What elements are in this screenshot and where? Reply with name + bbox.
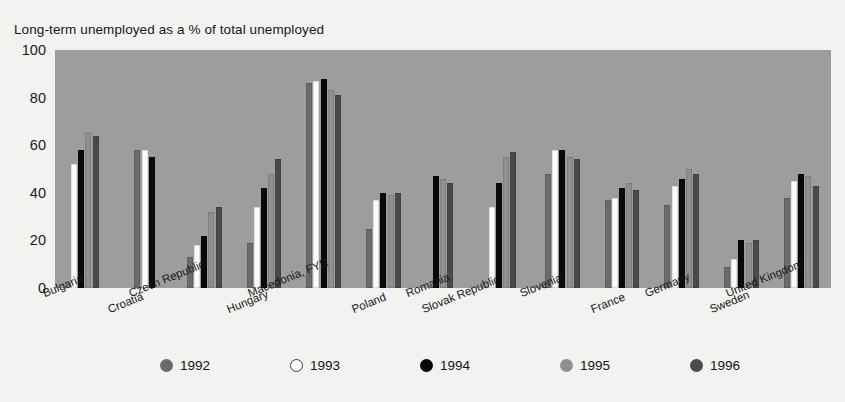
- bar-slovenia-1996: [574, 159, 580, 288]
- bar-group: [433, 50, 453, 288]
- bar-hungary-1994: [261, 188, 267, 288]
- legend-label: 1993: [310, 358, 340, 373]
- bar-hungary-1992: [247, 243, 253, 288]
- legend-item-1996[interactable]: 1996: [690, 358, 740, 373]
- bar-bulgaria-1993: [71, 164, 77, 288]
- bar-poland-1992: [366, 229, 372, 289]
- bar-group: [306, 50, 341, 288]
- bar-romania-1994: [433, 176, 439, 288]
- bar-hungary-1993: [254, 207, 260, 288]
- legend-label: 1995: [580, 358, 610, 373]
- bar-bulgaria-1994: [78, 150, 84, 288]
- legend-label: 1994: [440, 358, 470, 373]
- bar-poland-1995: [388, 195, 394, 288]
- bar-group: [71, 50, 99, 288]
- legend-swatch-icon: [690, 359, 703, 372]
- bar-group: [664, 50, 699, 288]
- bar-germany-1993: [672, 186, 678, 288]
- y-axis-tick: 60: [30, 137, 46, 153]
- x-axis-label-france: France: [589, 291, 627, 316]
- x-axis-label-poland: Poland: [350, 291, 388, 316]
- bar-macedonia-fyr-1993: [313, 81, 319, 288]
- bar-slovenia-1994: [559, 150, 565, 288]
- bar-macedonia-fyr-1992: [306, 83, 312, 288]
- y-axis: 020406080100: [0, 50, 52, 288]
- bar-group: [724, 50, 759, 288]
- y-axis-tick: 40: [30, 185, 46, 201]
- bar-group: [366, 50, 401, 288]
- bar-united-kingdom-1995: [805, 176, 811, 288]
- bar-macedonia-fyr-1996: [335, 95, 341, 288]
- bar-group: [605, 50, 640, 288]
- bar-germany-1992: [664, 205, 670, 288]
- x-axis-category-labels: BulgariaCroatiaCzech RepublicHungaryMace…: [55, 288, 845, 358]
- bar-france-1992: [605, 200, 611, 288]
- bar-france-1995: [626, 183, 632, 288]
- legend-swatch-icon: [420, 359, 433, 372]
- legend-item-1994[interactable]: 1994: [420, 358, 470, 373]
- bar-group: [134, 50, 154, 288]
- bars-layer: [55, 50, 831, 288]
- legend-swatch-icon: [560, 359, 573, 372]
- bar-slovak-republic-1994: [496, 183, 502, 288]
- bar-bulgaria-1995: [85, 133, 91, 288]
- bar-czech-republic-1995: [208, 212, 214, 288]
- legend-label: 1996: [710, 358, 740, 373]
- bar-france-1993: [612, 198, 618, 288]
- bar-croatia-1993: [142, 150, 148, 288]
- bar-germany-1996: [693, 174, 699, 288]
- bar-united-kingdom-1994: [798, 174, 804, 288]
- bar-group: [545, 50, 580, 288]
- bar-bulgaria-1996: [93, 136, 99, 288]
- bar-slovenia-1993: [552, 150, 558, 288]
- bar-slovak-republic-1995: [503, 157, 509, 288]
- chart-container: Long-term unemployed as a % of total une…: [0, 0, 845, 402]
- bar-hungary-1995: [268, 174, 274, 288]
- bar-hungary-1996: [275, 159, 281, 288]
- legend-item-1993[interactable]: 1993: [290, 358, 340, 373]
- legend-item-1995[interactable]: 1995: [560, 358, 610, 373]
- bar-slovenia-1995: [567, 157, 573, 288]
- y-axis-tick: 20: [30, 232, 46, 248]
- bar-romania-1996: [447, 183, 453, 288]
- bar-group: [784, 50, 819, 288]
- bar-group: [187, 50, 222, 288]
- bar-united-kingdom-1996: [813, 186, 819, 288]
- chart-title: Long-term unemployed as a % of total une…: [14, 22, 324, 37]
- bar-macedonia-fyr-1995: [328, 90, 334, 288]
- bar-poland-1994: [380, 193, 386, 288]
- plot-area: [55, 50, 831, 288]
- bar-slovenia-1992: [545, 174, 551, 288]
- bar-france-1996: [633, 190, 639, 288]
- legend-label: 1992: [180, 358, 210, 373]
- bar-poland-1993: [373, 200, 379, 288]
- bar-poland-1996: [395, 193, 401, 288]
- legend-swatch-icon: [290, 359, 303, 372]
- bar-france-1994: [619, 188, 625, 288]
- bar-slovak-republic-1996: [510, 152, 516, 288]
- chart-legend: 19921993199419951996: [0, 358, 845, 384]
- bar-croatia-1994: [149, 157, 155, 288]
- bar-group: [247, 50, 282, 288]
- y-axis-tick: 100: [22, 42, 46, 58]
- y-axis-tick: 80: [30, 90, 46, 106]
- legend-item-1992[interactable]: 1992: [160, 358, 210, 373]
- legend-swatch-icon: [160, 359, 173, 372]
- bar-croatia-1992: [134, 150, 140, 288]
- bar-group: [489, 50, 517, 288]
- bar-czech-republic-1996: [216, 207, 222, 288]
